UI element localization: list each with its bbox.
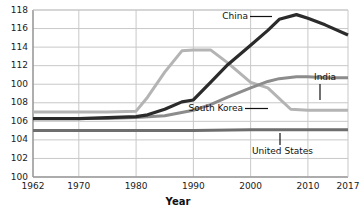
x-tick-label: 2017	[328, 182, 364, 191]
x-tick-label: 2010	[288, 182, 328, 191]
x-tick-label: 2000	[231, 182, 271, 191]
series-lines	[33, 15, 348, 131]
series-label-south-korea: South Korea	[188, 104, 243, 113]
y-tick-label: 108	[0, 98, 28, 107]
y-tick-label: 118	[0, 6, 28, 15]
y-tick-label: 106	[0, 117, 28, 126]
y-tick-label: 102	[0, 154, 28, 163]
y-tick-label: 104	[0, 135, 28, 144]
y-tick-label: 114	[0, 43, 28, 52]
x-axis-title: Year	[0, 196, 356, 207]
series-label-united-states: United States	[252, 147, 313, 156]
series-label-india: India	[314, 73, 336, 82]
y-tick-label: 112	[0, 61, 28, 70]
y-tick-label: 100	[0, 80, 28, 89]
y-tick-label: 116	[0, 24, 28, 33]
x-tick-label: 1980	[116, 182, 156, 191]
series-label-china: China	[222, 12, 248, 21]
x-tick-label: 1970	[59, 182, 99, 191]
x-tick-label: 1990	[173, 182, 213, 191]
x-tick-label: 1962	[13, 182, 53, 191]
annotation-leader-lines	[245, 17, 320, 146]
